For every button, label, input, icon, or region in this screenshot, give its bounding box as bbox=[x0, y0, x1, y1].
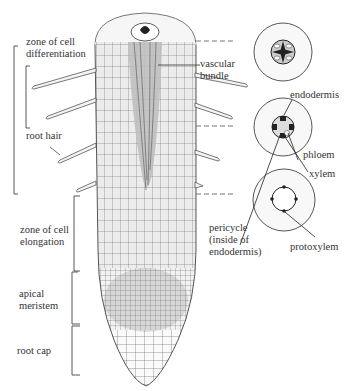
root-body bbox=[90, 42, 202, 390]
label-root-hair: root hair bbox=[26, 130, 62, 142]
root-top-dome bbox=[95, 13, 196, 45]
label-zone-elongation: zone of cell elongation bbox=[20, 224, 69, 248]
label-pericycle: pericycle (inside of endodermis) bbox=[209, 222, 262, 258]
label-endodermis: endodermis bbox=[290, 89, 339, 101]
cross-section-middle bbox=[254, 98, 312, 156]
cross-section-bottom bbox=[253, 169, 315, 231]
root-diagram: zone of cell differentiation root hair z… bbox=[0, 0, 348, 391]
cross-section-top bbox=[254, 23, 312, 81]
label-root-cap: root cap bbox=[17, 345, 51, 357]
label-xylem: xylem bbox=[309, 168, 335, 180]
label-zone-differentiation: zone of cell differentiation bbox=[26, 36, 86, 60]
label-phloem: phloem bbox=[303, 149, 335, 161]
label-protoxylem: protoxylem bbox=[290, 241, 338, 253]
label-apical-meristem: apical meristem bbox=[19, 288, 58, 312]
label-vascular-bundle: vascular bundle bbox=[200, 58, 235, 82]
zone-brackets bbox=[14, 46, 80, 375]
